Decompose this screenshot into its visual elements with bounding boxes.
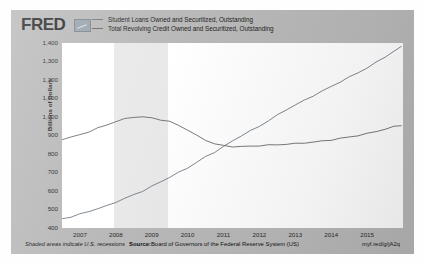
chart-header: FRED Student Loans Owned and Securitized…: [11, 10, 414, 41]
y-axis-tick-label: 900: [14, 132, 58, 138]
x-axis-tick-label: 2007: [73, 231, 87, 238]
legend-item-revolving-credit[interactable]: Total Revolving Credit Owned and Securit…: [92, 25, 274, 32]
screenshot-root: FRED Student Loans Owned and Securitized…: [0, 0, 425, 264]
x-axis-tick-label: 2012: [253, 231, 267, 238]
x-axis-tick-label: 2011: [217, 231, 230, 238]
x-axis-tick-label: 2008: [109, 231, 123, 238]
y-axis-tick-label: 1,100: [14, 95, 58, 101]
line-student-loans: [62, 46, 401, 218]
y-axis-tick-label: 400: [14, 225, 58, 231]
fred-chart-card: FRED Student Loans Owned and Securitized…: [11, 10, 414, 254]
legend-swatch-icon: [92, 19, 103, 20]
permalink-url[interactable]: myf.red/g/jA2q: [362, 241, 400, 247]
y-axis-tick-label: 700: [14, 169, 58, 175]
x-axis-tick-label: 2014: [324, 231, 338, 238]
fred-graph-mark-icon: [74, 19, 91, 32]
y-axis-tick-label: 1,000: [14, 114, 58, 120]
legend-label-revolving-credit: Total Revolving Credit Owned and Securit…: [108, 25, 274, 32]
fred-logo: FRED: [21, 15, 65, 35]
source-prefix: Source:: [129, 241, 151, 247]
x-axis-tick-label: 2010: [181, 231, 195, 238]
series-lines: [62, 43, 403, 228]
source-note: Source:Board of Governors of the Federal…: [129, 241, 299, 247]
line-revolving-credit: [62, 117, 401, 147]
y-axis-tick-label: 1,400: [14, 40, 58, 46]
y-axis-tick-label: 1,200: [14, 77, 58, 83]
y-axis-tick-label: 500: [14, 206, 58, 212]
y-axis-tick-label: 800: [14, 151, 58, 157]
x-axis-tick-label: 2009: [145, 231, 159, 238]
x-axis-tick-label: 2015: [360, 231, 374, 238]
recession-footnote: Shaded areas indicate U.S. recessions: [25, 241, 125, 247]
y-axis-tick-label: 1,300: [14, 58, 58, 64]
y-axis-title: Billions of Dollars: [46, 79, 53, 132]
plot-area: [62, 43, 403, 228]
y-axis-tick-label: 600: [14, 188, 58, 194]
legend-swatch-icon: [92, 28, 103, 29]
legend-label-student-loans: Student Loans Owned and Securitized, Out…: [108, 16, 253, 23]
legend-item-student-loans[interactable]: Student Loans Owned and Securitized, Out…: [92, 16, 253, 23]
source-text: Board of Governors of the Federal Reserv…: [151, 241, 299, 247]
x-axis-tick-label: 2013: [288, 231, 302, 238]
